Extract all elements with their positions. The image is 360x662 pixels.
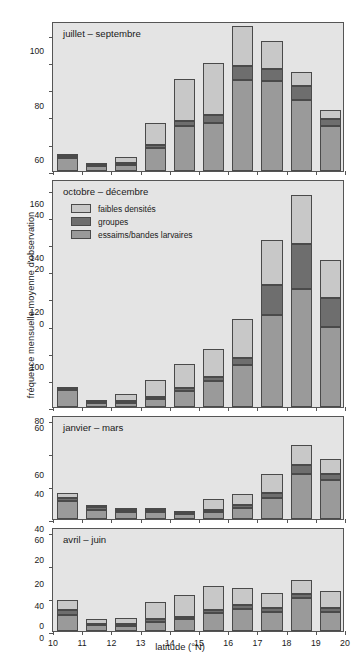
bar-segment-essaims-bandes-larvaires xyxy=(320,480,341,519)
bar-11-12 xyxy=(86,164,107,171)
x-tick-label: 11 xyxy=(78,638,87,648)
bar-segment-groupes xyxy=(320,298,341,327)
x-tick xyxy=(53,171,54,175)
bar-segment-essaims-bandes-larvaires xyxy=(291,100,312,171)
bar-13-14 xyxy=(145,123,166,171)
bar-18-19 xyxy=(291,445,312,519)
y-tick: 80 xyxy=(49,64,53,65)
bar-segment-faibles-densit-s xyxy=(232,26,253,66)
y-tick-label: 60 xyxy=(34,470,44,480)
x-tick xyxy=(316,631,317,635)
bar-17-18 xyxy=(261,474,282,519)
bar-segment-faibles-densit-s xyxy=(203,586,224,609)
x-tick-label: 17 xyxy=(252,638,262,648)
plot-area: 020406080100120140160octobre – décembref… xyxy=(53,181,343,407)
bar-17-18 xyxy=(261,593,282,631)
bar-segment-groupes xyxy=(145,619,166,621)
bar-17-18 xyxy=(261,41,282,171)
bar-segment-groupes xyxy=(174,388,195,391)
bar-segment-faibles-densit-s xyxy=(261,240,282,285)
bar-segment-faibles-densit-s xyxy=(115,157,136,162)
y-tick: 160 xyxy=(49,192,53,193)
y-axis-title: fréquence mensuelle moyenne d'observatio… xyxy=(26,190,36,420)
bar-14-15 xyxy=(174,364,195,407)
bar-13-14 xyxy=(145,509,166,519)
bar-segment-essaims-bandes-larvaires xyxy=(115,165,136,171)
bar-segment-essaims-bandes-larvaires xyxy=(174,619,195,631)
y-tick-label: 40 xyxy=(34,489,44,499)
bar-segment-essaims-bandes-larvaires xyxy=(320,327,341,407)
bar-10-11 xyxy=(57,388,78,407)
x-tick-label: 20 xyxy=(340,638,350,648)
x-tick xyxy=(257,407,258,411)
x-tick xyxy=(345,631,346,635)
bar-segment-groupes xyxy=(291,465,312,474)
x-tick xyxy=(228,407,229,411)
bar-segment-faibles-densit-s xyxy=(203,499,224,510)
x-tick xyxy=(257,631,258,635)
legend-swatch-icon xyxy=(71,230,91,239)
bar-segment-essaims-bandes-larvaires xyxy=(261,81,282,171)
y-tick: 20 xyxy=(49,382,53,383)
legend-item-faibles-densit-s: faibles densités xyxy=(71,203,193,214)
bar-segment-faibles-densit-s xyxy=(115,394,136,401)
bar-segment-essaims-bandes-larvaires xyxy=(145,622,166,631)
bar-segment-groupes xyxy=(261,285,282,315)
x-tick xyxy=(287,631,288,635)
bar-segment-essaims-bandes-larvaires xyxy=(86,403,107,407)
bar-segment-faibles-densit-s xyxy=(115,618,136,625)
y-tick-label: 60 xyxy=(34,423,44,433)
y-tick: 140 xyxy=(49,219,53,220)
bar-segment-essaims-bandes-larvaires xyxy=(86,166,107,171)
bar-segment-faibles-densit-s xyxy=(291,195,312,244)
x-tick xyxy=(199,171,200,175)
bar-segment-essaims-bandes-larvaires xyxy=(203,123,224,171)
bar-14-15 xyxy=(174,512,195,519)
y-tick: 20 xyxy=(49,488,53,489)
x-tick xyxy=(199,407,200,411)
bar-segment-faibles-densit-s xyxy=(261,593,282,608)
y-tick-label: 120 xyxy=(30,307,44,317)
x-tick xyxy=(316,519,317,523)
bar-19-20 xyxy=(320,260,341,407)
x-tick xyxy=(111,407,112,411)
y-tick-label: 100 xyxy=(30,362,44,372)
x-tick-label: 19 xyxy=(311,638,321,648)
y-tick: 100 xyxy=(49,273,53,274)
bar-segment-faibles-densit-s xyxy=(115,508,136,510)
bar-segment-faibles-densit-s xyxy=(261,41,282,68)
x-tick xyxy=(345,519,346,523)
y-tick: 40 xyxy=(49,118,53,119)
x-tick xyxy=(141,171,142,175)
bar-segment-faibles-densit-s xyxy=(86,163,107,165)
bar-segment-essaims-bandes-larvaires xyxy=(203,381,224,407)
x-tick xyxy=(228,171,229,175)
bar-segment-faibles-densit-s xyxy=(145,508,166,510)
x-tick xyxy=(141,519,142,523)
bar-13-14 xyxy=(145,602,166,631)
bar-16-17 xyxy=(232,319,253,407)
y-tick-label: 140 xyxy=(30,253,44,263)
x-tick xyxy=(170,171,171,175)
bar-segment-groupes xyxy=(232,66,253,80)
bar-segment-groupes xyxy=(320,608,341,612)
x-tick xyxy=(170,407,171,411)
bar-segment-faibles-densit-s xyxy=(291,445,312,465)
bar-segment-faibles-densit-s xyxy=(320,260,341,298)
y-tick: 20 xyxy=(49,600,53,601)
y-tick-label: 0 xyxy=(39,633,44,643)
legend-swatch-icon xyxy=(71,217,91,226)
bar-segment-groupes xyxy=(291,86,312,100)
bar-segment-faibles-densit-s xyxy=(232,319,253,358)
panel-title-octobre-decembre: octobre – décembre xyxy=(63,186,148,197)
y-tick-label: 160 xyxy=(30,199,44,209)
bar-19-20 xyxy=(320,591,341,631)
bar-segment-essaims-bandes-larvaires xyxy=(232,609,253,631)
bar-15-16 xyxy=(203,63,224,171)
bar-segment-faibles-densit-s xyxy=(57,493,78,498)
x-tick xyxy=(228,519,229,523)
bar-segment-essaims-bandes-larvaires xyxy=(291,598,312,631)
x-tick-label: 16 xyxy=(223,638,233,648)
bar-segment-essaims-bandes-larvaires xyxy=(174,514,195,519)
y-tick-label: 80 xyxy=(34,101,44,111)
